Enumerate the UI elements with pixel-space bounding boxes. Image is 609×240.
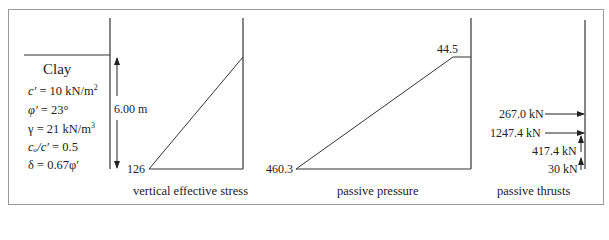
- thrust-label-1247: 1247.4 kN: [490, 126, 541, 140]
- ves-triangle: [149, 57, 243, 169]
- prop-symbol: cᵤ/c′: [28, 140, 49, 154]
- prop-value: = 21 kN/m: [34, 122, 91, 136]
- soil-prop-adhesion-ratio: cᵤ/c′ = 0.5: [28, 140, 78, 154]
- prop-symbol: φ′: [28, 103, 38, 117]
- prop-value: = 10 kN/m: [36, 84, 93, 98]
- ves-caption: vertical effective stress: [133, 184, 248, 198]
- soil-prop-friction-angle: φ′ = 23°: [28, 103, 68, 117]
- soil-name: Clay: [43, 62, 71, 76]
- soil-prop-wall-friction: δ = 0.67φ′: [28, 158, 79, 172]
- prop-value: = 23°: [38, 103, 69, 117]
- soil-prop-unit-weight: γ = 21 kN/m3: [28, 122, 95, 136]
- prop-exponent: 2: [94, 83, 98, 92]
- thrust-label-417: 417.4 kN: [532, 144, 577, 158]
- prop-value: = 0.67φ′: [34, 158, 79, 172]
- pt-caption: passive thrusts: [497, 184, 570, 198]
- pp-top-value: 44.5: [437, 42, 458, 56]
- prop-exponent: 3: [91, 121, 95, 130]
- thrust-label-30: 30 kN: [548, 162, 578, 176]
- prop-value: = 0.5: [49, 140, 78, 154]
- pp-trapezoid: [296, 57, 471, 169]
- soil-prop-cohesion: c′ = 10 kN/m2: [28, 84, 98, 98]
- pp-base-value: 460.3: [266, 162, 293, 176]
- ves-base-value: 126: [127, 162, 145, 176]
- wall-height-label: 6.00 m: [114, 101, 147, 117]
- thrust-label-267: 267.0 kN: [499, 107, 544, 121]
- pp-caption: passive pressure: [337, 184, 419, 198]
